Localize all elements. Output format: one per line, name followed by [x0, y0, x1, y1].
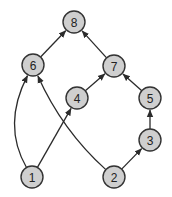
edge-1-to-6: [14, 76, 27, 168]
node-3: 3: [139, 129, 161, 151]
node-label: 6: [30, 59, 37, 73]
node-label: 4: [74, 92, 81, 106]
node-7: 7: [103, 55, 125, 77]
node-label: 3: [147, 134, 154, 148]
nodes-layer: 86745312: [21, 11, 161, 188]
node-4: 4: [66, 87, 88, 109]
directed-graph-diagram: 86745312: [0, 0, 172, 197]
node-label: 5: [147, 92, 154, 106]
node-label: 7: [111, 60, 118, 74]
edge-2-to-3: [122, 149, 142, 170]
edge-5-to-7: [123, 74, 142, 91]
node-label: 8: [71, 16, 78, 30]
node-2: 2: [103, 166, 125, 188]
node-5: 5: [139, 87, 161, 109]
node-1: 1: [21, 166, 43, 188]
node-8: 8: [63, 11, 85, 33]
edge-6-to-8: [41, 31, 66, 57]
node-6: 6: [22, 54, 44, 76]
edge-1-to-4: [37, 108, 71, 167]
node-label: 2: [111, 171, 118, 185]
edge-7-to-8: [82, 31, 107, 58]
node-label: 1: [29, 171, 36, 185]
edge-4-to-7: [85, 74, 105, 91]
